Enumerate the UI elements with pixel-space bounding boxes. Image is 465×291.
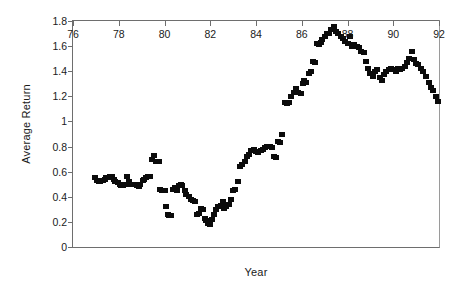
chart-figure: Average Return 00.20.40.60.811.21.41.61.… bbox=[0, 0, 465, 291]
y-axis-tick-label: 0.8 bbox=[52, 141, 67, 153]
data-point bbox=[298, 91, 304, 96]
x-axis-tick-label: 76 bbox=[67, 28, 79, 40]
y-axis-tick-mark bbox=[68, 71, 73, 72]
y-axis-tick-label: 1.2 bbox=[52, 90, 67, 102]
y-axis-tick-label: 1.4 bbox=[52, 65, 67, 77]
data-point bbox=[228, 197, 234, 202]
data-point bbox=[286, 100, 292, 105]
data-point bbox=[435, 99, 441, 104]
x-axis-tick-label: 86 bbox=[296, 28, 308, 40]
data-point bbox=[162, 188, 168, 193]
x-axis-tick-label: 88 bbox=[342, 28, 354, 40]
x-axis-tick-label: 82 bbox=[204, 28, 216, 40]
data-point bbox=[156, 159, 162, 164]
data-point bbox=[207, 222, 213, 227]
x-axis-tick-label: 78 bbox=[113, 28, 125, 40]
y-axis-tick-label: 1 bbox=[61, 115, 67, 127]
y-axis-tick-label: 1.8 bbox=[52, 15, 67, 27]
data-point bbox=[409, 49, 415, 54]
data-point bbox=[211, 212, 217, 217]
x-axis-tick-mark bbox=[73, 21, 74, 26]
x-axis-tick-mark bbox=[439, 21, 440, 26]
data-point bbox=[277, 140, 283, 145]
x-axis-tick-mark bbox=[348, 21, 349, 26]
data-point bbox=[363, 59, 369, 64]
data-point bbox=[192, 199, 198, 204]
data-point bbox=[226, 202, 232, 207]
x-axis-tick-mark bbox=[210, 21, 211, 26]
y-axis-tick-mark bbox=[68, 46, 73, 47]
data-point bbox=[269, 145, 275, 150]
data-point bbox=[423, 74, 429, 79]
data-point bbox=[379, 78, 385, 83]
plot-area: 00.20.40.60.811.21.41.61.876788082848688… bbox=[72, 20, 440, 248]
x-axis-tick-label: 80 bbox=[159, 28, 171, 40]
y-axis-tick-mark bbox=[68, 247, 73, 248]
scatter-points-layer bbox=[73, 21, 441, 249]
data-point bbox=[174, 188, 180, 193]
data-point bbox=[232, 187, 238, 192]
data-point bbox=[370, 74, 376, 79]
data-point bbox=[209, 217, 215, 222]
x-axis-tick-mark bbox=[165, 21, 166, 26]
data-point bbox=[303, 80, 309, 85]
data-point bbox=[168, 213, 174, 218]
y-axis-tick-mark bbox=[68, 197, 73, 198]
x-axis-tick-label: 84 bbox=[250, 28, 262, 40]
data-point bbox=[163, 204, 169, 209]
y-axis-tick-label: 0 bbox=[61, 241, 67, 253]
y-axis-title: Average Return bbox=[14, 0, 38, 248]
x-axis-tick-label: 92 bbox=[433, 28, 445, 40]
data-point bbox=[430, 88, 436, 93]
data-point bbox=[374, 67, 380, 72]
x-axis-tick-mark bbox=[256, 21, 257, 26]
y-axis-tick-label: 1.6 bbox=[52, 40, 67, 52]
x-axis-tick-mark bbox=[393, 21, 394, 26]
y-axis-tick-mark bbox=[68, 96, 73, 97]
data-point bbox=[235, 179, 241, 184]
data-point bbox=[308, 69, 314, 74]
y-axis-tick-mark bbox=[68, 147, 73, 148]
y-axis-tick-mark bbox=[68, 222, 73, 223]
y-axis-tick-label: 0.4 bbox=[52, 191, 67, 203]
data-point bbox=[147, 174, 153, 179]
data-point bbox=[279, 132, 285, 137]
data-point bbox=[361, 50, 367, 55]
data-point bbox=[242, 159, 248, 164]
x-axis-tick-label: 90 bbox=[387, 28, 399, 40]
x-axis-tick-mark bbox=[119, 21, 120, 26]
y-axis-tick-mark bbox=[68, 172, 73, 173]
y-axis-tick-label: 0.6 bbox=[52, 166, 67, 178]
data-point bbox=[273, 155, 279, 160]
x-axis-title: Year bbox=[72, 266, 440, 278]
y-axis-tick-mark bbox=[68, 121, 73, 122]
data-point bbox=[312, 60, 318, 65]
y-axis-tick-label: 0.2 bbox=[52, 216, 67, 228]
x-axis-tick-mark bbox=[302, 21, 303, 26]
y-axis-title-label: Average Return bbox=[20, 84, 32, 164]
data-point bbox=[200, 207, 206, 212]
data-point bbox=[151, 153, 157, 158]
